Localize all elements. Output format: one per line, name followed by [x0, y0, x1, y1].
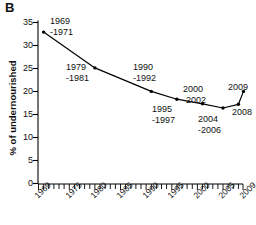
data-point — [150, 90, 153, 93]
point-annotation-1979-1981: 1979 -1981 — [66, 62, 89, 83]
annotation-line-2: -2002 — [183, 95, 206, 106]
point-annotation-2000-2002: 2000 -2002 — [183, 84, 206, 105]
annotation-line-2: -1981 — [66, 73, 89, 84]
annotation-line-1: 1969 — [50, 16, 70, 26]
annotation-line-1: 2004 — [198, 114, 218, 124]
annotation-line-1: 1990 — [133, 62, 153, 72]
annotation-line-2: -2006 — [198, 125, 221, 136]
annotation-line-2: -1971 — [50, 27, 73, 38]
annotation-line-1: 1979 — [66, 62, 86, 72]
point-annotation-1990-1992: 1990 -1992 — [133, 62, 156, 83]
data-point — [221, 106, 224, 109]
data-point — [42, 30, 45, 33]
point-annotation-1969-1971: 1969 -1971 — [50, 16, 73, 37]
point-annotation-2004-2006: 2004 -2006 — [198, 114, 221, 135]
point-annotation-2009: 2009 — [228, 82, 248, 93]
annotation-line-2: -1992 — [133, 73, 156, 84]
data-point — [237, 103, 240, 106]
annotation-line-1: 2009 — [228, 82, 248, 92]
figure-panel-b: B % of undernourished 35 30 25 20 15 10 … — [0, 0, 256, 225]
point-annotation-1995-1997: 1995 -1997 — [152, 104, 175, 125]
annotation-line-1: 2000 — [183, 84, 203, 94]
data-point — [175, 98, 178, 101]
annotation-line-1: 2008 — [232, 107, 252, 117]
annotation-line-2: -1997 — [152, 115, 175, 126]
annotation-line-1: 1995 — [152, 104, 172, 114]
point-annotation-2008: 2008 — [232, 107, 252, 118]
data-point — [93, 66, 96, 69]
y-tick-marks — [33, 23, 38, 184]
